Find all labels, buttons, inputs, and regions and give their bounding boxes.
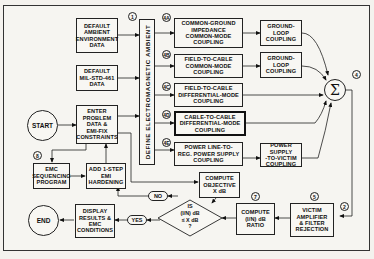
tag-8: 8 [33, 151, 42, 160]
tag-1: 1 [128, 12, 137, 21]
tag-5: 5 [310, 192, 319, 201]
default-ambient-environment-data-box: DEFAULT AMBIENT ENVIRONMENT DATA [76, 18, 118, 53]
tag-4: 4 [352, 70, 361, 79]
victim-amplifier-box: VICTIM AMPLIFIER & FILTER REJECTION [290, 203, 334, 237]
compute-ratio-box: COMPUTE (I/N) dB RATIO [236, 203, 275, 235]
define-electromagnetic-ambient-label: DEFINE ELECTROMAGNETIC AMBIENT [144, 25, 151, 160]
start-terminal: START [27, 110, 58, 141]
tag-7: 7 [251, 192, 260, 201]
tag-4d: 4D [162, 110, 171, 119]
add-emi-hardening-box: ADD 1-STEP EMI HARDENING [86, 163, 126, 189]
define-electromagnetic-ambient-box: DEFINE ELECTROMAGNETIC AMBIENT [139, 19, 155, 165]
emc-sequencing-program-box: EMC SEQUENCING PROGRAM [33, 163, 70, 189]
coupling-4d-box: CABLE-TO-CABLE DIFFERENTIAL-MODE COUPLIN… [174, 111, 246, 136]
tag-4a: 4A [162, 13, 171, 22]
coupling-4a-box: COMMON-GROUND IMPEDANCE COMMON-MODE COUP… [174, 18, 243, 48]
display-results-box: DISPLAY RESULTS & EMC CONDITIONS [75, 204, 115, 238]
coupling-4b-box: FIELD-TO-CABLE COMMON-MODE COUPLING [174, 54, 243, 78]
yes-label: YES [127, 215, 147, 225]
coupling-4c-box: FIELD-TO-CABLE DIFFERENTIAL-MODE COUPLIN… [174, 83, 243, 107]
coupling-4e-box: POWER LINE-TO- REG. POWER SUPPLY COUPLIN… [174, 142, 243, 166]
ground-loop-coupling-box-1: GROUND-LOOP COUPLING [260, 20, 302, 46]
compute-objective-box: COMPUTE OBJECTIVE X dB [199, 172, 240, 198]
end-terminal: END [28, 205, 59, 236]
enter-problem-data-box: ENTER PROBLEM DATA & EMI-FIX CONSTRAINTS [76, 105, 118, 144]
summation-node: Σ [324, 79, 346, 101]
no-label: NO [148, 191, 168, 201]
tag-4c: 4C [162, 82, 171, 91]
ground-loop-coupling-box-2: GROUND-LOOP COUPLING [260, 52, 302, 78]
default-milstd461-data-box: DEFAULT MIL-STD-461 DATA [76, 65, 118, 91]
tag-4e: 4E [162, 138, 171, 147]
tag-2: 2 [340, 202, 349, 211]
tag-4b: 4B [162, 50, 171, 59]
decision-label: IS (I/N) dB ≤ X dB ? [166, 203, 214, 230]
power-supply-to-victim-box: POWER SUPPLY -TO-VICTIM COUPLING [260, 143, 302, 167]
